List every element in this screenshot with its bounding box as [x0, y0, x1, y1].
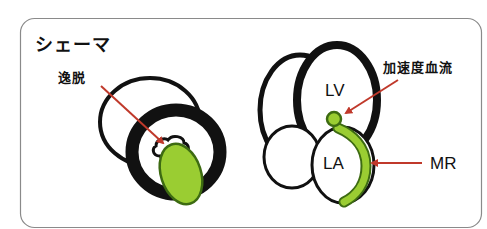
prolapse-label: 逸脱 — [58, 71, 86, 84]
schema-title: シェーマ — [35, 36, 111, 54]
accelerated-flow-dot — [327, 112, 341, 126]
mr-label: MR — [430, 155, 456, 172]
la-label: LA — [323, 155, 344, 172]
accelerated-flow-label: 加速度血流 — [383, 61, 453, 74]
lv-label: LV — [325, 82, 345, 99]
